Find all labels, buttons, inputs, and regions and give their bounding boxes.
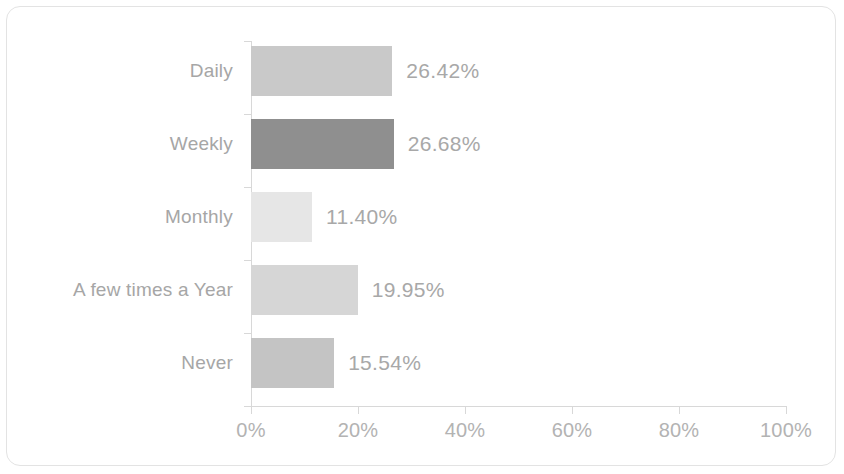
y-axis-tick	[244, 114, 251, 115]
category-label-daily: Daily	[7, 46, 233, 96]
x-axis-tick-label: 20%	[338, 419, 379, 442]
y-axis-tick	[244, 41, 251, 42]
category-label-text: Monthly	[7, 206, 233, 228]
bar-daily[interactable]	[251, 46, 392, 96]
bar-weekly[interactable]	[251, 119, 394, 169]
chart-frame: Daily 26.42% Weekly 26.68% Monthly 11.40…	[6, 6, 836, 466]
bar-a-few-times-a-year[interactable]	[251, 265, 358, 315]
bar-chart-plot-area: Daily 26.42% Weekly 26.68% Monthly 11.40…	[7, 7, 837, 467]
bar-value-never: 15.54%	[348, 338, 421, 388]
x-axis-tick	[679, 406, 680, 414]
x-axis-tick	[572, 406, 573, 414]
y-axis-tick	[244, 260, 251, 261]
x-axis-tick	[358, 406, 359, 414]
x-axis-tick-label: 100%	[760, 419, 812, 442]
bar-monthly[interactable]	[251, 192, 312, 242]
x-axis-line	[251, 406, 786, 407]
bar-value-daily: 26.42%	[406, 46, 479, 96]
x-axis-tick-label: 40%	[445, 419, 486, 442]
y-axis-tick	[244, 187, 251, 188]
bar-value-monthly: 11.40%	[326, 192, 397, 242]
y-axis-tick	[244, 406, 251, 407]
category-label-text: Weekly	[7, 133, 233, 155]
category-label-a-few-times-a-year: A few times a Year	[7, 265, 233, 315]
x-axis-tick-label: 60%	[552, 419, 593, 442]
y-axis-tick	[244, 333, 251, 334]
category-label-weekly: Weekly	[7, 119, 233, 169]
category-label-text: Never	[7, 352, 233, 374]
category-label-text: A few times a Year	[7, 279, 233, 301]
x-axis-tick-label: 80%	[659, 419, 700, 442]
x-axis-tick	[251, 406, 252, 414]
x-axis-tick	[465, 406, 466, 414]
bar-never[interactable]	[251, 338, 334, 388]
category-label-never: Never	[7, 338, 233, 388]
category-label-text: Daily	[7, 60, 233, 82]
x-axis-tick	[786, 406, 787, 414]
bar-value-weekly: 26.68%	[408, 119, 481, 169]
category-label-monthly: Monthly	[7, 192, 233, 242]
x-axis-tick-label: 0%	[236, 419, 265, 442]
bar-value-a-few-times-a-year: 19.95%	[372, 265, 445, 315]
